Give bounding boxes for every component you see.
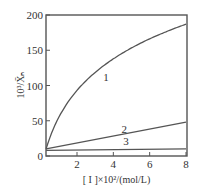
- y-axis-label: 10³/X̄ₙ: [15, 72, 26, 99]
- x-tick-label: 2: [74, 158, 80, 170]
- y-tick-label: 0: [38, 150, 44, 162]
- y-tick-label: 100: [27, 80, 44, 92]
- series-line-2: [46, 122, 186, 149]
- series-label-1: 1: [103, 71, 109, 83]
- plot-area: 0501001502002468123[ I ]×10²/(mol/L)10³/…: [15, 9, 189, 186]
- series-label-3: 3: [123, 135, 129, 147]
- series-line-1: [46, 24, 186, 149]
- y-tick-label: 200: [27, 9, 44, 21]
- chart: 0501001502002468123[ I ]×10²/(mol/L)10³/…: [0, 0, 198, 192]
- x-tick-label: 8: [183, 158, 189, 170]
- series-line-3: [46, 149, 186, 151]
- x-tick-label: 6: [147, 158, 153, 170]
- series-label-2: 2: [121, 123, 127, 135]
- x-axis-label: [ I ]×10²/(mol/L): [83, 174, 151, 186]
- y-tick-label: 150: [27, 44, 44, 56]
- x-tick-label: 4: [111, 158, 117, 170]
- y-tick-label: 50: [32, 115, 44, 127]
